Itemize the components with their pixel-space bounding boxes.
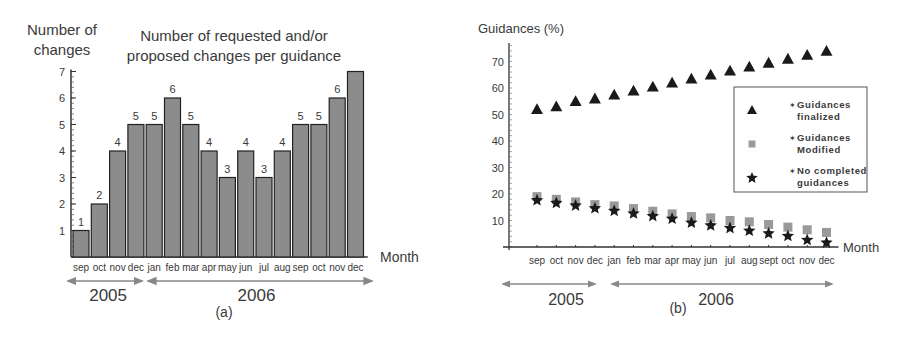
bar-value-label: 4 <box>115 136 121 148</box>
bar-value-label: 5 <box>188 110 194 122</box>
x-tick-label: dec <box>347 262 363 273</box>
bar-value-label: 4 <box>279 136 285 148</box>
legend-label-line2: guidances <box>797 177 849 188</box>
legend-label-line1: No completed <box>797 165 867 176</box>
marker-guidances-finalized <box>608 89 620 100</box>
bar <box>256 178 272 258</box>
marker-guidances-finalized <box>685 73 697 84</box>
x-axis-label: Month <box>380 249 419 265</box>
legend: ✶Guidancesfinalized✶GuidancesModified✶No… <box>734 87 867 192</box>
bar <box>91 204 107 257</box>
x-tick-label: mar <box>644 255 662 266</box>
legend-square-icon <box>749 141 756 148</box>
x-tick-label: jan <box>147 262 161 273</box>
x-tick-label: jan <box>607 255 621 266</box>
y-tick-label: 2 <box>59 198 65 210</box>
bar <box>146 125 162 258</box>
y-tick-label: 7 <box>59 66 65 78</box>
bar <box>238 151 254 257</box>
x-tick-label: aug <box>741 255 758 266</box>
bar <box>128 125 144 258</box>
x-tick-label: jul <box>724 255 735 266</box>
x-tick-label: sep <box>293 262 310 273</box>
y-tick-label: 60 <box>492 82 504 94</box>
legend-label-line2: Modified <box>797 144 841 155</box>
y-tick-label: 30 <box>492 162 504 174</box>
legend-label-line1: Guidances <box>797 132 851 143</box>
x-tick-label: oct <box>93 262 107 273</box>
marker-guidances-finalized <box>801 49 813 60</box>
panel-label: (a) <box>215 304 232 320</box>
y-tick-label: 6 <box>59 92 65 104</box>
year-label-2005: 2005 <box>548 291 584 308</box>
marker-no-completed-guidances <box>801 234 813 246</box>
marker-guidances-finalized <box>647 81 659 92</box>
x-tick-label: oct <box>781 255 795 266</box>
y-axis-label-line2: changes <box>34 41 91 58</box>
x-tick-label: sep <box>73 262 90 273</box>
bar <box>73 231 89 258</box>
y-tick-label: 20 <box>492 188 504 200</box>
bar <box>274 151 290 257</box>
x-tick-label: jun <box>238 262 252 273</box>
x-tick-label: feb <box>627 255 641 266</box>
panel-label: (b) <box>669 300 686 316</box>
bar <box>219 178 235 258</box>
bar <box>165 98 181 257</box>
y-tick-label: 10 <box>492 215 504 227</box>
bar <box>348 72 364 258</box>
bar <box>311 125 327 258</box>
bar-value-label: 2 <box>96 189 102 201</box>
x-tick-label: jun <box>703 255 717 266</box>
year-groups: 20052006 <box>68 281 372 305</box>
bar-value-label: 3 <box>224 163 230 175</box>
legend-label-line2: finalized <box>797 111 840 122</box>
chart-title-line2: proposed changes per guidance <box>127 47 341 64</box>
y-tick-label: 70 <box>492 56 504 68</box>
bar-value-label: 5 <box>151 110 157 122</box>
y-axis-label-line1: Number of <box>27 21 98 38</box>
x-axis-label: Month <box>843 240 879 255</box>
marker-guidances-finalized <box>743 61 755 72</box>
marker-guidances-finalized <box>705 69 717 80</box>
bar <box>183 125 199 258</box>
bars: 1sep2oct4nov5dec5jan6feb5mar4apr3may4jun… <box>73 72 364 274</box>
bar-value-label: 3 <box>261 163 267 175</box>
bar-chart-panel-a: Number of changes Number of requested an… <box>27 21 419 320</box>
year-label-2006: 2006 <box>698 291 734 308</box>
marker-guidances-finalized <box>821 45 833 56</box>
y-tick-label: 5 <box>59 119 65 131</box>
marker-guidances-finalized <box>570 95 582 106</box>
bar-value-label: 5 <box>133 110 139 122</box>
x-tick-label: nov <box>568 255 584 266</box>
svg-text:✶: ✶ <box>789 134 796 143</box>
x-tick-label: feb <box>166 262 180 273</box>
svg-text:✶: ✶ <box>789 101 796 110</box>
bar-value-label: 1 <box>78 216 84 228</box>
marker-guidances-finalized <box>589 93 601 104</box>
marker-guidances-finalized <box>763 57 775 68</box>
x-tick-label: oct <box>550 255 564 266</box>
x-tick-label: dec <box>128 262 144 273</box>
x-tick-label: jul <box>258 262 269 273</box>
bar-value-label: 4 <box>206 136 212 148</box>
x-tick-label: may <box>682 255 701 266</box>
marker-guidances-finalized <box>550 101 562 112</box>
y-tick-label: 50 <box>492 109 504 121</box>
y-tick-label: 40 <box>492 135 504 147</box>
x-tick-label: nov <box>329 262 345 273</box>
y-tick-label: 1 <box>59 225 65 237</box>
bar <box>110 151 126 257</box>
bar-value-label: 6 <box>334 83 340 95</box>
x-tick-label: apr <box>665 255 680 266</box>
y-tick-label: 3 <box>59 172 65 184</box>
x-tick-label: sept <box>759 255 778 266</box>
marker-guidances-finalized <box>531 103 543 114</box>
legend-label-line1: Guidances <box>797 99 851 110</box>
figure: Number of changes Number of requested an… <box>0 0 910 345</box>
x-tick-label: aug <box>274 262 291 273</box>
chart-title-line1: Number of requested and/or <box>140 27 328 44</box>
year-label-2006: 2006 <box>238 286 276 305</box>
year-label-2005: 2005 <box>89 286 127 305</box>
bar <box>293 125 309 258</box>
